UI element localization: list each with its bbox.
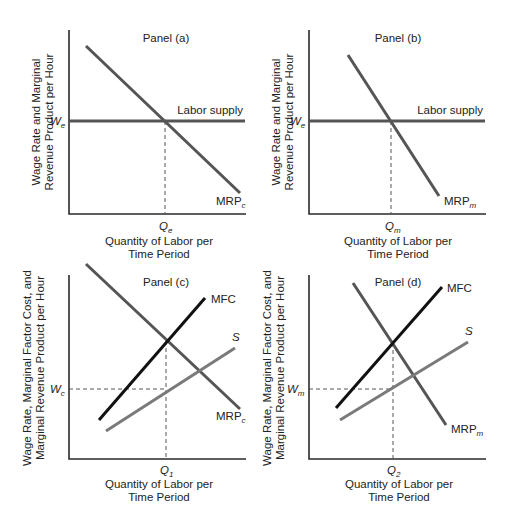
panel-d-xlabel-2: Time Period bbox=[368, 491, 430, 503]
panel-a-ylabel-1: Wage Rate and Marginal bbox=[30, 59, 42, 186]
panel-d-w-label: Wm bbox=[287, 383, 305, 398]
panel-d-s-label: S bbox=[465, 325, 473, 337]
panel-a-xlabel-1: Quantity of Labor per bbox=[105, 235, 213, 247]
panel-c-w-label: Wc bbox=[50, 383, 65, 398]
panel-b-mrp-label: MRPm bbox=[444, 195, 477, 210]
panel-d-q-label: Q2 bbox=[387, 464, 401, 479]
panel-b-ylabel-1: Wage Rate and Marginal bbox=[270, 59, 282, 186]
panel-d-mrp-label: MRPm bbox=[451, 423, 484, 438]
panel-c-s-label: S bbox=[232, 331, 240, 343]
panel-c-title: Panel (c) bbox=[143, 276, 189, 288]
panel-b-q-label: Qm bbox=[385, 220, 401, 235]
panel-c: Panel (c) Wage Rate, Marginal Factor Cos… bbox=[21, 264, 246, 503]
panel-d-mfc-label: MFC bbox=[447, 282, 472, 294]
panel-b-supply-label: Labor supply bbox=[417, 104, 483, 116]
panel-d-title: Panel (d) bbox=[375, 276, 422, 288]
panel-b-mrp-line bbox=[348, 55, 439, 196]
panel-b-xlabel-1: Quantity of Labor per bbox=[344, 235, 452, 247]
panel-d: Panel (d) Wage Rate, Marginal Factor Cos… bbox=[261, 270, 486, 503]
panel-c-xlabel-1: Quantity of Labor per bbox=[105, 478, 213, 490]
panel-b-xlabel-2: Time Period bbox=[367, 248, 429, 260]
panel-c-mfc-label: MFC bbox=[211, 293, 236, 305]
panel-c-xlabel-2: Time Period bbox=[128, 491, 190, 503]
panel-b-title: Panel (b) bbox=[375, 32, 422, 44]
panel-a-title: Panel (a) bbox=[143, 32, 190, 44]
panel-a-xlabel-2: Time Period bbox=[128, 248, 190, 260]
panel-a: Panel (a) Wage Rate and Marginal Revenue… bbox=[30, 30, 246, 260]
panel-d-xlabel-1: Quantity of Labor per bbox=[345, 478, 453, 490]
panel-d-ylabel-1: Wage Rate, Marginal Factor Cost, and bbox=[261, 270, 273, 466]
figure: Panel (a) Wage Rate and Marginal Revenue… bbox=[0, 0, 506, 517]
panel-c-ylabel-1: Wage Rate, Marginal Factor Cost, and bbox=[21, 270, 33, 466]
panel-c-ylabel-2: Marginal Revenue Product per Hour bbox=[34, 276, 46, 460]
panel-b: Panel (b) Wage Rate and Marginal Revenue… bbox=[270, 30, 486, 260]
panel-a-supply-label: Labor supply bbox=[177, 104, 243, 116]
panel-c-mrp-label: MRPc bbox=[216, 410, 246, 425]
panel-d-ylabel-2: Marginal Revenue Product per Hour bbox=[274, 276, 286, 460]
panel-c-q-label: Q1 bbox=[160, 464, 173, 479]
panel-a-q-label: Qe bbox=[159, 220, 173, 235]
panel-a-mrp-label: MRPc bbox=[216, 195, 246, 210]
